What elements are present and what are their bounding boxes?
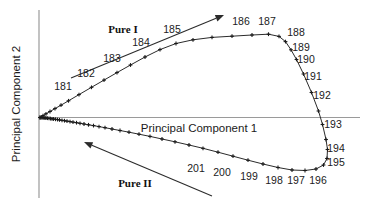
point-label: 198 xyxy=(265,174,283,186)
point-label: 195 xyxy=(327,156,345,168)
point-label: 184 xyxy=(132,36,150,48)
point-label: 183 xyxy=(103,52,121,64)
point-label: 181 xyxy=(54,80,72,92)
point-label: 188 xyxy=(287,26,305,38)
point-label: 200 xyxy=(213,166,231,178)
point-label: 196 xyxy=(309,174,327,186)
point-label: 191 xyxy=(304,70,322,82)
point-label: 185 xyxy=(163,23,181,35)
point-label: 194 xyxy=(327,142,345,154)
x-axis-title: Principal Component 1 xyxy=(141,122,257,134)
point-label: 201 xyxy=(187,162,205,174)
pure-one-label: Pure I xyxy=(108,23,137,35)
point-label: 189 xyxy=(292,41,310,53)
point-label: 197 xyxy=(287,174,305,186)
point-label: 182 xyxy=(77,67,95,79)
point-label: 192 xyxy=(313,89,331,101)
point-label: 186 xyxy=(232,15,250,27)
point-label: 199 xyxy=(240,170,258,182)
pure-two-label: Pure II xyxy=(118,177,152,189)
pca-score-plot: 1811821831841851861871881891901911921931… xyxy=(0,0,373,212)
point-label: 187 xyxy=(258,15,276,27)
point-label: 190 xyxy=(297,53,315,65)
point-label: 193 xyxy=(324,118,342,130)
y-axis-title: Principal Component 2 xyxy=(10,46,22,162)
